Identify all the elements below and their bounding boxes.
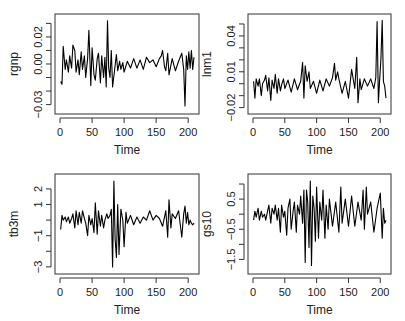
series-line bbox=[254, 181, 386, 266]
x-tick-label: 200 bbox=[179, 286, 197, 298]
y-axis-title: tb3m bbox=[7, 211, 21, 238]
x-tick-label: 0 bbox=[57, 286, 63, 298]
x-tick-label: 50 bbox=[86, 286, 98, 298]
x-axis-title: Time bbox=[306, 143, 333, 157]
x-tick-label: 50 bbox=[86, 126, 98, 138]
x-tick-label: 150 bbox=[339, 286, 357, 298]
y-tick-label: 0.00 bbox=[32, 53, 44, 74]
y-tick-label: −3 bbox=[32, 261, 44, 274]
x-tick-label: 150 bbox=[147, 286, 165, 298]
panel-gs10: 050100150200Time0.5−0.5−1.5gs10 bbox=[200, 174, 391, 317]
x-tick-label: 200 bbox=[371, 286, 389, 298]
y-tick-label: 0.04 bbox=[225, 25, 237, 46]
panel-rgnp: 050100150200Time0.020.00−0.03rgnp bbox=[7, 14, 199, 157]
x-tick-label: 150 bbox=[339, 126, 357, 138]
y-tick-label: −1 bbox=[32, 229, 44, 242]
panel-lnm1: 050100150200Time0.040.01−0.02lnm1 bbox=[200, 14, 391, 157]
plot-frame bbox=[248, 14, 391, 114]
x-tick-label: 200 bbox=[371, 126, 389, 138]
x-axis-title: Time bbox=[114, 143, 141, 157]
y-tick-label: 1 bbox=[32, 201, 44, 207]
x-tick-label: 100 bbox=[307, 126, 325, 138]
y-tick-label: 0.5 bbox=[225, 191, 237, 206]
plot-frame bbox=[55, 174, 199, 274]
series-line bbox=[61, 181, 194, 267]
x-tick-label: 0 bbox=[57, 126, 63, 138]
y-tick-label: −0.03 bbox=[32, 91, 44, 119]
panel-tb3m: 050100150200Time21−1−3tb3m bbox=[7, 174, 199, 317]
y-tick-label: −1.5 bbox=[225, 249, 237, 271]
x-axis-title: Time bbox=[306, 303, 333, 317]
x-tick-label: 50 bbox=[279, 126, 291, 138]
y-tick-label: −0.5 bbox=[225, 218, 237, 240]
series-line bbox=[61, 21, 194, 106]
x-tick-label: 50 bbox=[279, 286, 291, 298]
x-tick-label: 100 bbox=[115, 126, 133, 138]
y-tick-label: 2 bbox=[32, 186, 44, 192]
series-line bbox=[254, 20, 386, 102]
x-tick-label: 200 bbox=[179, 126, 197, 138]
y-axis-title: rgnp bbox=[7, 52, 21, 76]
time-series-grid: 050100150200Time0.020.00−0.03rgnp 050100… bbox=[0, 0, 405, 321]
y-axis-title: lnm1 bbox=[200, 51, 214, 77]
y-tick-label: −0.02 bbox=[225, 94, 237, 122]
x-tick-label: 100 bbox=[307, 286, 325, 298]
x-tick-label: 150 bbox=[147, 126, 165, 138]
x-tick-label: 0 bbox=[250, 126, 256, 138]
y-tick-label: 0.01 bbox=[225, 61, 237, 82]
y-axis-title: gs10 bbox=[200, 211, 214, 237]
x-tick-label: 100 bbox=[115, 286, 133, 298]
x-tick-label: 0 bbox=[250, 286, 256, 298]
x-axis-title: Time bbox=[114, 303, 141, 317]
y-tick-label: 0.02 bbox=[32, 26, 44, 47]
